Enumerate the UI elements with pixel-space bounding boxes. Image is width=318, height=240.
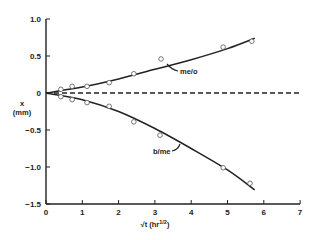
y-axis-label-unit: (mm) — [13, 108, 32, 117]
x-tick-label: 1 — [80, 208, 85, 217]
y-tick-label: −0.5 — [25, 126, 41, 135]
data-point-me-o — [59, 87, 64, 92]
data-point-me-o — [159, 57, 164, 62]
data-point-me-o — [132, 71, 137, 76]
annotation-label-me-o: me/o — [180, 67, 198, 76]
x-tick-label: 7 — [298, 208, 303, 217]
fit-curve-b-me — [46, 93, 255, 190]
annotation-label-b-me: b/me — [153, 147, 171, 156]
x-tick-label: 5 — [225, 208, 230, 217]
data-point-me-o — [85, 84, 90, 89]
annotation-leader-b-me — [172, 144, 180, 151]
y-tick-label: 1.0 — [30, 15, 42, 24]
data-point-b-me — [132, 120, 137, 125]
data-point-me-o — [107, 80, 112, 85]
data-point-me-o — [250, 39, 255, 44]
data-point-b-me — [107, 104, 112, 109]
x-tick-label: 2 — [116, 208, 121, 217]
data-point-b-me — [248, 181, 253, 186]
x-axis-label: √t (hr1/2) — [141, 219, 170, 229]
data-point-b-me — [70, 97, 75, 102]
x-tick-label: 4 — [189, 208, 194, 217]
data-point-me-o — [221, 45, 226, 50]
x-tick-label: 6 — [262, 208, 267, 217]
y-tick-label: −1.0 — [25, 163, 41, 172]
data-point-b-me — [85, 100, 90, 105]
x-tick-label: 3 — [153, 208, 158, 217]
data-point-b-me — [59, 94, 64, 99]
data-point-b-me — [158, 133, 163, 138]
chart-svg: 1.00.50−0.5−1.0−1.501234567x(mm)√t (hr1/… — [0, 0, 318, 240]
x-tick-label: 0 — [44, 208, 49, 217]
y-tick-label: 0 — [37, 89, 42, 98]
y-axis-label-var: x — [20, 99, 25, 108]
data-point-me-o — [70, 84, 75, 89]
y-tick-label: 0.5 — [30, 52, 42, 61]
y-tick-label: −1.5 — [25, 200, 41, 209]
data-point-b-me — [221, 165, 226, 170]
